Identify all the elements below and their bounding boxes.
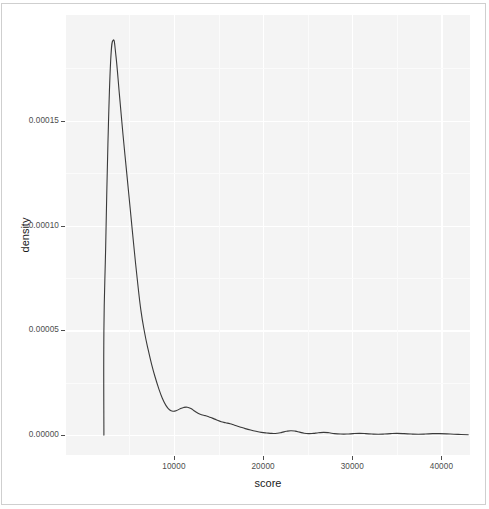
x-tick-label: 30000 bbox=[322, 463, 382, 471]
plot-panel bbox=[66, 15, 470, 455]
density-curve-line bbox=[104, 40, 468, 435]
density-plot-figure: density score 0.000000.000050.000100.000… bbox=[0, 0, 489, 509]
y-tick-mark bbox=[61, 330, 65, 331]
x-tick-mark bbox=[352, 456, 353, 460]
y-tick-label: 0.00010 bbox=[29, 222, 59, 230]
y-tick-mark bbox=[61, 226, 65, 227]
y-tick-label: 0.00000 bbox=[29, 431, 59, 439]
x-tick-label: 20000 bbox=[233, 463, 293, 471]
y-tick-mark bbox=[61, 121, 65, 122]
x-axis-title: score bbox=[66, 477, 470, 489]
x-tick-label: 10000 bbox=[144, 463, 204, 471]
x-tick-mark bbox=[263, 456, 264, 460]
y-tick-mark bbox=[61, 435, 65, 436]
y-tick-label: 0.00005 bbox=[29, 326, 59, 334]
density-curve-svg bbox=[66, 15, 470, 455]
x-tick-mark bbox=[441, 456, 442, 460]
y-tick-label: 0.00015 bbox=[29, 117, 59, 125]
x-tick-label: 40000 bbox=[411, 463, 471, 471]
x-tick-mark bbox=[174, 456, 175, 460]
